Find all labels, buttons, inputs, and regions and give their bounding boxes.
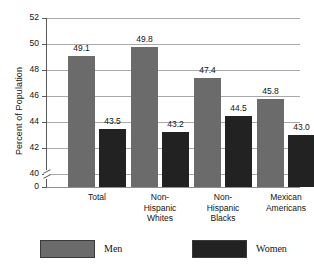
- x-axis-category-labels: TotalNon-HispanicWhitesNon-HispanicBlack…: [46, 192, 300, 228]
- bar-men-2: [194, 78, 221, 187]
- y-tick-label: 0: [34, 182, 39, 191]
- y-tick-label: 46: [30, 91, 39, 100]
- bar-value-label: 43.0: [283, 123, 314, 132]
- category-label-1: Non-HispanicWhites: [128, 192, 192, 224]
- category-label-line: Hispanic: [191, 203, 255, 214]
- bar-value-label: 43.2: [157, 120, 194, 129]
- legend-swatch-women-icon: [192, 240, 247, 258]
- y-tick-label: 40: [30, 169, 39, 178]
- axis-break-icon: [43, 168, 51, 181]
- y-tick-mark: [42, 96, 47, 97]
- bar-value-label: 45.8: [252, 87, 289, 96]
- legend-label-women: Women: [256, 242, 287, 255]
- y-tick-mark: [42, 44, 47, 45]
- bar-chart: Percent of Population 525048464442400 49…: [0, 0, 314, 273]
- bar-men-3: [257, 99, 284, 187]
- y-tick-mark: [42, 122, 47, 123]
- category-label-line: Whites: [128, 213, 192, 224]
- category-label-line: Total: [65, 192, 129, 203]
- category-label-3: MexicanAmericans: [254, 192, 314, 213]
- y-tick-mark: [42, 187, 47, 188]
- y-axis-title: Percent of Population: [14, 36, 24, 186]
- legend-label-men: Men: [104, 242, 122, 255]
- legend-swatch-men-icon: [40, 240, 95, 258]
- category-label-2: Non-HispanicBlacks: [191, 192, 255, 224]
- y-tick-label: 42: [30, 143, 39, 152]
- category-label-line: Non-: [191, 192, 255, 203]
- bar-value-label: 49.8: [126, 35, 163, 44]
- y-tick-mark: [42, 70, 47, 71]
- bar-value-label: 49.1: [63, 44, 100, 53]
- y-tick-mark: [42, 18, 47, 19]
- chart-legend: Men Women: [0, 240, 314, 264]
- bar-men-0: [68, 56, 95, 187]
- bar-value-label: 43.5: [94, 117, 131, 126]
- category-label-0: Total: [65, 192, 129, 203]
- bar-women-3: [288, 135, 314, 187]
- bar-women-0: [99, 129, 126, 188]
- y-tick-label: 48: [30, 65, 39, 74]
- y-tick-label: 52: [30, 13, 39, 22]
- bar-value-label: 47.4: [189, 66, 226, 75]
- x-axis-line: [46, 187, 300, 188]
- bar-men-1: [131, 47, 158, 187]
- y-tick-label: 44: [30, 117, 39, 126]
- y-tick-mark: [42, 148, 47, 149]
- category-label-line: Mexican: [254, 192, 314, 203]
- category-label-line: Americans: [254, 203, 314, 214]
- category-label-line: Blacks: [191, 213, 255, 224]
- category-label-line: Hispanic: [128, 203, 192, 214]
- bar-value-label: 44.5: [220, 104, 257, 113]
- category-label-line: Non-: [128, 192, 192, 203]
- bar-women-1: [162, 132, 189, 187]
- y-tick-label: 50: [30, 39, 39, 48]
- gridline: [46, 18, 300, 19]
- plot-area: 525048464442400 49.143.549.843.247.444.5…: [46, 18, 300, 188]
- bar-women-2: [225, 116, 252, 188]
